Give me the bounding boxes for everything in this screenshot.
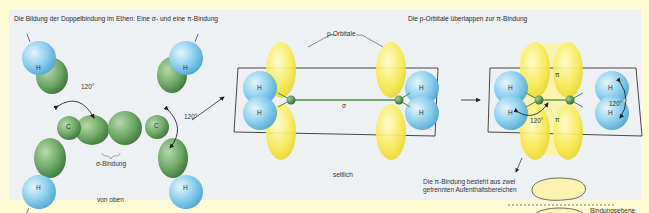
angle-label: 120° — [81, 84, 94, 91]
c-label: C — [154, 123, 159, 130]
h-label: H — [36, 185, 41, 192]
sigma-bond-label: σ-Bindung — [96, 161, 126, 168]
carbon-atom — [566, 96, 575, 105]
angle-label: 120° — [184, 114, 197, 121]
carbon-atom — [395, 96, 404, 105]
pi-label-bottom: π — [555, 117, 560, 124]
caption-top-view: von oben — [97, 197, 124, 204]
carbon-atom — [535, 96, 544, 105]
pi-region-top — [532, 178, 586, 200]
sigma-label: σ — [342, 103, 346, 110]
angle-label: 120° — [609, 101, 622, 108]
pi-note-line1: Die π-Bindung besteht aus zwei — [423, 179, 515, 186]
middle-molecule-side-view — [234, 35, 439, 160]
bond-plane-label: Bindungsebene — [590, 208, 635, 213]
angle-label: 120° — [530, 118, 543, 125]
h-label: H — [257, 85, 262, 92]
pi-label-top: π — [555, 72, 560, 79]
h-label: H — [183, 185, 188, 192]
p-orbital-lobe — [553, 104, 583, 160]
arrow-icon — [516, 158, 522, 172]
p-orbital-lobe — [376, 42, 406, 98]
caption-side-view: seitlich — [333, 172, 353, 179]
carbon-atom — [287, 96, 296, 105]
h-label: H — [419, 85, 424, 92]
title-left: Die Bildung der Doppelbindung im Ethen: … — [14, 16, 218, 23]
h-label: H — [36, 65, 41, 72]
h-label: H — [508, 110, 513, 117]
pi-region-bottom — [532, 208, 586, 213]
p-orbital-lobe — [553, 42, 583, 98]
p-orbital-label: p-Orbitale — [327, 31, 356, 38]
c-label: C — [66, 124, 71, 131]
sp2-lobe — [108, 111, 142, 145]
hydrogen-atom — [22, 175, 56, 209]
h-label: H — [183, 65, 188, 72]
sp2-lobe — [34, 138, 66, 178]
h-label: H — [419, 110, 424, 117]
hydrogen-atom — [169, 175, 203, 209]
h-label: H — [508, 85, 513, 92]
h-label: H — [257, 110, 262, 117]
p-orbital-lobe — [376, 104, 406, 160]
h-label: H — [608, 85, 613, 92]
left-molecule-top-view — [22, 34, 203, 213]
title-right: Die p-Orbitale überlappen zur π-Bindung — [408, 16, 527, 23]
ethene-bonding-diagram — [0, 0, 649, 213]
h-label: H — [608, 110, 613, 117]
pi-note-line2: getrennten Aufenthaltsbereichen — [423, 187, 517, 194]
sigma-bond-brace — [102, 153, 120, 159]
